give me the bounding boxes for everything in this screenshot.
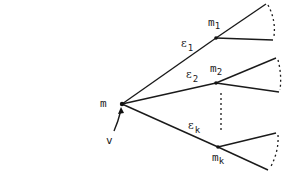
m2-branch-lower xyxy=(216,83,279,92)
m1-subtree-ellipsis xyxy=(268,5,274,36)
node-m2 xyxy=(214,81,218,85)
node-m2-label: m2 xyxy=(210,62,222,77)
root-node xyxy=(120,102,124,106)
mk-subtree-ellipsis xyxy=(270,135,278,168)
m2-subtree-ellipsis xyxy=(278,60,281,90)
node-mk-label: mk xyxy=(212,151,225,166)
root-label: m xyxy=(100,97,107,110)
node-mk xyxy=(216,145,220,149)
m2-branch-upper xyxy=(216,58,276,83)
m1-branch-lower xyxy=(216,38,273,40)
edge-epsilon2-label: ε2 xyxy=(186,68,198,84)
mk-branch-lower xyxy=(218,147,268,170)
node-m1-label: m1 xyxy=(208,16,220,31)
pointer-label: v xyxy=(106,134,113,147)
edge-epsilon1-label: ε1 xyxy=(181,37,193,53)
arrow-head-icon xyxy=(118,107,124,114)
tree-diagram: m v m1 ε1 m2 ε2 εk mk xyxy=(0,0,296,180)
edge-epsilonk-label: εk xyxy=(188,119,201,135)
node-m1 xyxy=(214,36,218,40)
mk-branch-upper xyxy=(218,133,276,147)
m1-branch-upper xyxy=(216,4,266,38)
edge-root-to-mk xyxy=(122,104,218,147)
